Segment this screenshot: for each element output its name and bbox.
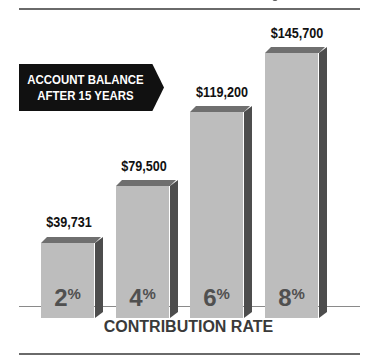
bar-category-label: 6%: [190, 284, 243, 312]
chart-callout: ACCOUNT BALANCE AFTER 15 YEARS: [19, 64, 164, 111]
bar-8-percent: 8%: [265, 47, 327, 318]
bar-category-label: 4%: [116, 284, 169, 312]
bar-category-label: 8%: [265, 284, 318, 312]
bar-value-label: $39,731: [38, 214, 101, 230]
bar-category-label: 2%: [41, 284, 94, 312]
bar-value-label: $145,700: [262, 25, 332, 41]
bar-4-percent: 4%: [116, 180, 178, 318]
x-axis-label: CONTRIBUTION RATE: [0, 318, 377, 336]
top-rule: [19, 8, 360, 10]
bar-value-label: $119,200: [187, 84, 257, 100]
bottom-rule: [19, 353, 360, 355]
title-fragment: [272, 0, 278, 1]
bar-2-percent: 2%: [41, 237, 103, 318]
bar-value-label: $79,500: [113, 158, 176, 174]
callout-line-2: AFTER 15 YEARS: [27, 88, 144, 103]
callout-line-1: ACCOUNT BALANCE: [27, 72, 144, 87]
bar-6-percent: 6%: [190, 106, 252, 318]
